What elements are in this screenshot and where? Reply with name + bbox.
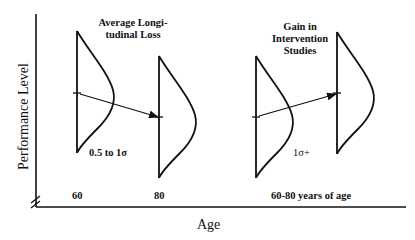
x-tick-60: 60: [72, 190, 83, 201]
loss-effect-label: 0.5 to 1σ: [89, 147, 127, 158]
right-panel-title-line2: Intervention: [270, 33, 330, 45]
left-panel-title: Average Longi- tudinal Loss: [88, 17, 178, 41]
gain-effect-label: 1σ+: [293, 147, 310, 158]
performance-age-diagram: Performance Level Age Average Longi- tud…: [0, 0, 415, 240]
diagram-canvas: [0, 0, 415, 240]
gain-arrow: [259, 94, 336, 116]
distribution-age-80: [155, 56, 196, 178]
x-tick-80: 80: [154, 190, 165, 201]
distribution-post-intervention: [333, 32, 374, 154]
left-panel-title-line1: Average Longi-: [88, 17, 178, 29]
right-panel-title: Gain in Intervention Studies: [270, 21, 330, 57]
y-axis-label: Performance Level: [16, 63, 32, 170]
left-panel-title-line2: tudinal Loss: [88, 29, 178, 41]
x-tick-60-80-years: 60-80 years of age: [271, 190, 351, 201]
right-panel-title-line1: Gain in: [270, 21, 330, 33]
distribution-pre-intervention: [252, 56, 293, 178]
distribution-age-60: [73, 31, 114, 153]
loss-arrow: [80, 94, 158, 117]
right-panel-title-line3: Studies: [270, 45, 330, 57]
x-axis-label: Age: [197, 217, 220, 233]
